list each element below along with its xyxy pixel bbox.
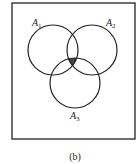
label-a3: A3 <box>69 110 80 123</box>
label-a1: A1 <box>31 17 42 30</box>
caption: (b) <box>69 151 81 163</box>
set-a2-circle <box>67 25 117 75</box>
label-a2: A2 <box>105 17 116 30</box>
set-a3-circle <box>50 58 100 108</box>
venn-diagram: A1 A2 A3 (b) <box>0 0 140 164</box>
set-a1-circle <box>28 25 78 75</box>
